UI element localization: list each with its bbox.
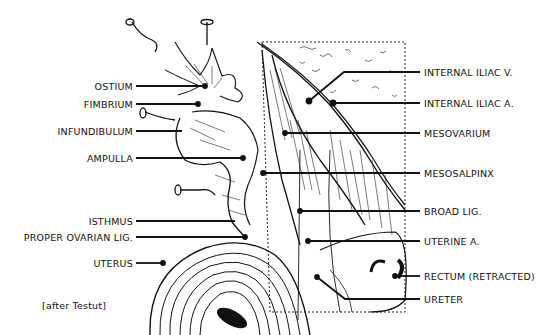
pins <box>126 19 215 195</box>
label-fimbrium: FIMBRIUM <box>84 99 133 110</box>
label-internal-iliac-v: INTERNAL ILIAC V. <box>424 67 513 78</box>
label-ureter: URETER <box>424 294 463 305</box>
label-infundibulum: INFUNDIBULUM <box>58 126 133 137</box>
label-mesosalpinx: MESOSALPINX <box>424 168 494 179</box>
label-ampulla: AMPULLA <box>87 153 133 164</box>
label-rectum-retracted: RECTUM (RETRACTED) <box>424 271 535 282</box>
label-uterine-a: UTERINE A. <box>424 236 480 247</box>
label-uterus: UTERUS <box>93 258 133 269</box>
label-isthmus: ISTHMUS <box>89 216 133 227</box>
label-internal-iliac-a: INTERNAL ILIAC A. <box>424 98 514 109</box>
uterus-shape <box>150 243 310 335</box>
drawing <box>126 19 406 335</box>
label-ostium: OSTIUM <box>95 81 133 92</box>
label-broad-lig: BROAD LIG. <box>424 206 482 217</box>
label-mesovarium: MESOVARIUM <box>424 128 490 139</box>
figure-caption: [after Testut] <box>42 300 106 311</box>
label-proper-ovarian-lig: PROPER OVARIAN LIG. <box>24 232 133 243</box>
